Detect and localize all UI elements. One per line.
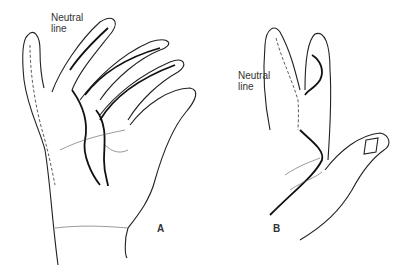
- hand-a-drawing: [23, 18, 196, 265]
- label-line1: Neutral: [238, 70, 270, 81]
- label-line1: Neutral: [51, 12, 83, 23]
- hand-illustration: [0, 0, 393, 274]
- panel-label-b: B: [273, 223, 280, 234]
- hand-b-drawing: [264, 28, 389, 240]
- label-line2: line: [51, 23, 83, 34]
- neutral-line-label-b: Neutral line: [238, 70, 270, 92]
- panel-label-a: A: [157, 223, 164, 234]
- neutral-line-label-a: Neutral line: [51, 12, 83, 34]
- label-line2: line: [238, 81, 270, 92]
- figure-canvas: Neutral line Neutral line A B: [0, 0, 393, 274]
